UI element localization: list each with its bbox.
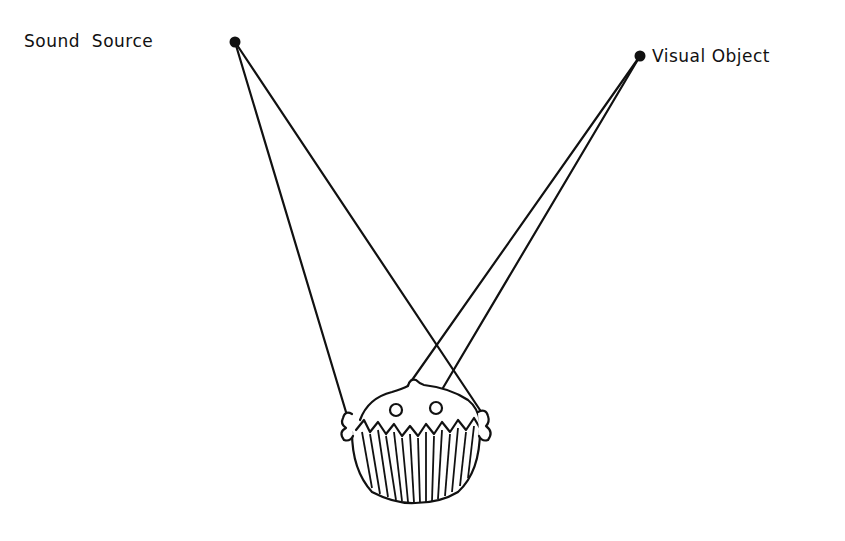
visual-line-left-eye: [398, 56, 640, 400]
right-ear: [478, 411, 491, 441]
left-ear: [341, 413, 353, 441]
sound-line-left-ear: [235, 42, 346, 412]
sound-line-right-ear: [235, 42, 480, 410]
right-eye: [430, 402, 442, 414]
diagram-canvas: [0, 0, 845, 541]
sound-source-dot: [230, 37, 241, 48]
visual-object-dot: [635, 51, 646, 62]
left-eye: [390, 404, 402, 416]
visual-line-right-eye: [437, 56, 640, 398]
